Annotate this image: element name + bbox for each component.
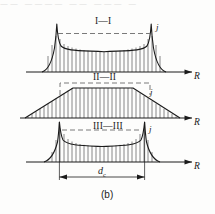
panel-1-axis-arrow [185, 69, 193, 74]
panel-3-j-label: j [149, 125, 152, 134]
panel-2-dashed-bracket [60, 83, 150, 95]
panel-1-group [26, 24, 192, 75]
panel-1-hatching [48, 36, 160, 72]
section-label-iii-iii: III—III [93, 122, 123, 132]
panel-3-axis-arrow [185, 159, 193, 164]
panel-3-axis-label: R [194, 162, 200, 172]
panel-2-axis-label: R [194, 118, 200, 128]
panel-1-axis-label: R [194, 72, 200, 82]
dimension-label-subscript: c [103, 171, 106, 178]
dimension-label-dc: dc [98, 166, 106, 179]
panel-2-group [20, 83, 192, 121]
section-label-ii-ii: II—II [93, 73, 116, 83]
panel-2-j-label: j [150, 88, 153, 97]
panel-2-axis-arrow [185, 115, 193, 120]
figure-caption: (b) [101, 190, 113, 200]
section-label-i-i: I—I [95, 17, 111, 27]
dimension-arrow-left [59, 175, 67, 180]
figure-graphics [0, 0, 215, 214]
figure-panel-b: —— ———— —— ——— — [0, 0, 215, 214]
panel-1-j-label: j [156, 23, 159, 32]
panel-2-hatching [28, 88, 176, 118]
dimension-arrow-right [137, 175, 145, 180]
panel-3-hatching [52, 129, 152, 163]
